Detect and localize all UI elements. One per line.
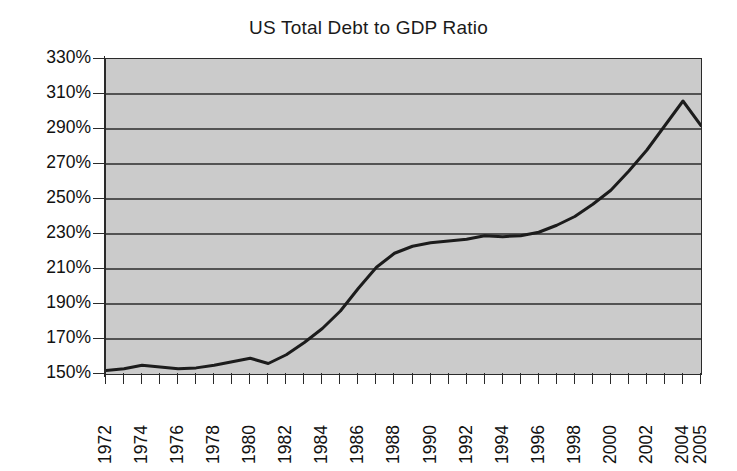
x-tick-mark: [412, 373, 413, 384]
x-tick-mark: [303, 373, 304, 384]
x-tick-mark: [502, 373, 503, 384]
x-tick-label: 1982: [276, 425, 294, 464]
x-tick-mark: [267, 373, 268, 384]
y-tick-label: 150%: [0, 364, 95, 381]
x-tick-mark: [682, 373, 683, 384]
y-tick-label: 230%: [0, 224, 95, 241]
x-tick-mark: [664, 373, 665, 384]
x-tick-mark: [123, 373, 124, 384]
x-tick-mark: [339, 373, 340, 384]
x-tick-label: 1994: [493, 425, 511, 464]
x-tick-label: 1984: [312, 425, 330, 464]
x-tick-mark: [285, 373, 286, 384]
x-tick-mark: [700, 373, 701, 384]
x-tick-label: 2005: [691, 425, 709, 464]
x-tick-mark: [141, 373, 142, 384]
x-tick-mark: [105, 373, 106, 384]
x-tick-mark: [520, 373, 521, 384]
y-tick-label: 210%: [0, 259, 95, 276]
y-tick-label: 310%: [0, 84, 95, 101]
y-tick-label: 250%: [0, 189, 95, 206]
x-tick-mark: [231, 373, 232, 384]
x-axis: 1972197419761978198019821984198619881990…: [105, 386, 700, 471]
x-tick-mark: [484, 373, 485, 384]
x-tick-label: 2000: [601, 425, 619, 464]
chart-figure: US Total Debt to GDP Ratio 330%310%290%2…: [0, 0, 737, 471]
chart-title: US Total Debt to GDP Ratio: [0, 17, 737, 39]
x-tick-mark: [592, 373, 593, 384]
x-tick-mark: [321, 373, 322, 384]
x-tick-mark: [393, 373, 394, 384]
y-axis: 330%310%290%270%250%230%210%190%170%150%: [0, 58, 95, 373]
x-tick-label: 1986: [348, 425, 366, 464]
x-tick-label: 1980: [240, 425, 258, 464]
x-tick-label: 1976: [168, 425, 186, 464]
x-tick-label: 1992: [457, 425, 475, 464]
x-tick-mark: [249, 373, 250, 384]
x-tick-label: 1978: [204, 425, 222, 464]
x-tick-mark: [195, 373, 196, 384]
gridlines: [106, 94, 701, 339]
x-tick-mark: [574, 373, 575, 384]
y-tick-label: 330%: [0, 49, 95, 66]
x-tick-label: 1974: [132, 425, 150, 464]
x-tick-mark: [375, 373, 376, 384]
series-svg: [106, 59, 701, 374]
x-tick-mark: [430, 373, 431, 384]
x-tick-mark: [159, 373, 160, 384]
x-tick-mark: [556, 373, 557, 384]
x-tick-mark: [357, 373, 358, 384]
x-tick-mark: [177, 373, 178, 384]
y-tick-label: 170%: [0, 329, 95, 346]
series-line-us-total-debt-to-gdp-ratio: [106, 101, 701, 371]
x-tick-mark: [213, 373, 214, 384]
y-tick-label: 290%: [0, 119, 95, 136]
x-tick-label: 1996: [529, 425, 547, 464]
x-tick-label: 1972: [96, 425, 114, 464]
x-tick-label: 1988: [384, 425, 402, 464]
x-tick-mark: [448, 373, 449, 384]
y-tick-label: 270%: [0, 154, 95, 171]
x-axis-ticks: [105, 373, 700, 385]
x-tick-mark: [466, 373, 467, 384]
x-tick-mark: [646, 373, 647, 384]
x-tick-label: 2002: [637, 425, 655, 464]
y-tick-label: 190%: [0, 294, 95, 311]
x-tick-mark: [538, 373, 539, 384]
plot-area: [105, 58, 702, 375]
x-tick-label: 2004: [673, 425, 691, 464]
x-tick-mark: [628, 373, 629, 384]
x-tick-label: 1990: [421, 425, 439, 464]
x-tick-label: 1998: [565, 425, 583, 464]
x-tick-mark: [610, 373, 611, 384]
